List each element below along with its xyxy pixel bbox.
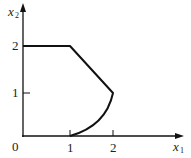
x-axis-label-subscript: 1	[180, 146, 184, 155]
x-tick-label-2: 2	[110, 140, 117, 155]
x-tick-label-1: 1	[67, 140, 74, 155]
diagram-canvas: 0 1 2 1 2 x 1 x 2	[0, 0, 191, 158]
y-axis-label: x	[7, 4, 14, 19]
y-tick-label-1: 1	[12, 85, 19, 100]
x-axis-label: x	[172, 139, 179, 154]
feasible-region-boundary	[23, 46, 113, 136]
y-axis-arrow-icon	[20, 3, 26, 12]
origin-label: 0	[12, 139, 19, 154]
y-axis-label-subscript: 2	[15, 11, 19, 20]
y-tick-label-2: 2	[12, 38, 19, 53]
